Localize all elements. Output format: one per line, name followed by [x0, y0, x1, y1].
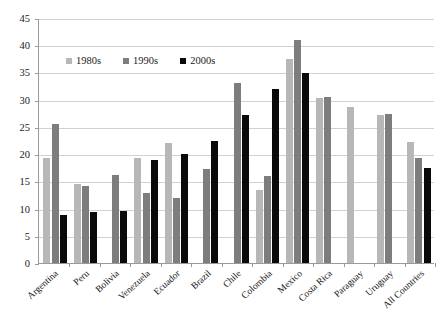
bar	[385, 114, 392, 263]
y-tick-label: 25	[0, 123, 30, 134]
bar	[316, 98, 323, 264]
bar	[242, 115, 249, 263]
y-tick-label: 0	[0, 259, 30, 270]
bar	[60, 215, 67, 263]
y-tick-label: 40	[0, 41, 30, 52]
y-tick-label: 5	[0, 232, 30, 243]
bar	[256, 190, 263, 263]
legend-label: 2000s	[190, 56, 215, 67]
bar-group	[313, 19, 343, 263]
y-tick-mark	[35, 155, 39, 156]
bar	[424, 168, 431, 263]
bar	[272, 89, 279, 263]
y-tick-label: 20	[0, 150, 30, 161]
bar-group	[283, 19, 313, 263]
bar	[407, 142, 414, 263]
legend-item: 1990s	[123, 56, 158, 67]
bar	[82, 186, 89, 263]
x-axis-label: Paraguay	[344, 266, 374, 336]
bar	[90, 212, 97, 263]
x-axis-label: Peru	[69, 266, 99, 336]
legend-swatch	[123, 58, 129, 64]
x-axis-label: Argentina	[39, 266, 69, 336]
bar-group	[252, 19, 282, 263]
bar	[143, 193, 150, 263]
legend-swatch	[180, 58, 186, 64]
bar-group	[222, 19, 252, 263]
bar	[134, 158, 141, 263]
bar-group	[404, 19, 434, 263]
y-tick-label: 15	[0, 177, 30, 188]
x-axis-label: All Countries	[405, 266, 435, 336]
bar-group	[373, 19, 403, 263]
bar	[203, 169, 210, 263]
y-tick-mark	[35, 19, 39, 20]
bar	[52, 124, 59, 263]
x-axis-label: Brazil	[191, 266, 221, 336]
bar	[43, 158, 50, 263]
bar	[181, 154, 188, 263]
x-axis-label: Mexico	[283, 266, 313, 336]
legend-item: 2000s	[180, 56, 215, 67]
bar	[286, 59, 293, 263]
y-tick-label: 30	[0, 95, 30, 106]
bar	[173, 198, 180, 263]
bar	[211, 141, 218, 263]
x-axis-labels: ArgentinaPeruBoliviaVenezuelaEcuadorBraz…	[39, 266, 435, 336]
y-tick-label: 35	[0, 68, 30, 79]
x-tick-mark	[435, 263, 436, 267]
x-axis-label: Colombia	[252, 266, 282, 336]
y-tick-mark	[35, 101, 39, 102]
x-axis-label-text: Brazil	[189, 269, 213, 292]
bar	[347, 107, 354, 263]
bar	[112, 175, 119, 263]
bar	[165, 143, 172, 263]
x-axis-label: Chile	[222, 266, 252, 336]
bar-chart: 051015202530354045 ArgentinaPeruBoliviaV…	[0, 0, 442, 336]
bar	[415, 158, 422, 263]
y-tick-mark	[35, 210, 39, 211]
bar	[377, 115, 384, 263]
y-tick-mark	[35, 237, 39, 238]
legend-label: 1990s	[133, 56, 158, 67]
x-axis-label-text: Argentina	[26, 269, 60, 301]
x-axis-label: Costa Rica	[313, 266, 343, 336]
bar	[151, 160, 158, 263]
x-axis-label: Venezuela	[130, 266, 160, 336]
legend-label: 1980s	[76, 56, 101, 67]
bar	[302, 73, 309, 263]
bar	[264, 176, 271, 263]
y-tick-label: 10	[0, 204, 30, 215]
legend-item: 1980s	[66, 56, 101, 67]
x-axis-label-text: Chile	[222, 269, 244, 290]
x-axis-label: Ecuador	[161, 266, 191, 336]
bar	[324, 97, 331, 263]
bar	[294, 40, 301, 263]
legend: 1980s1990s2000s	[66, 56, 215, 67]
bar-group	[343, 19, 373, 263]
y-tick-mark	[35, 182, 39, 183]
y-tick-mark	[35, 264, 39, 265]
bar	[234, 83, 241, 263]
x-axis-label-text: Peru	[72, 269, 91, 288]
y-tick-mark	[35, 46, 39, 47]
y-tick-mark	[35, 73, 39, 74]
y-tick-mark	[35, 128, 39, 129]
y-tick-label: 45	[0, 14, 30, 25]
x-axis-label: Bolivia	[100, 266, 130, 336]
bar	[74, 184, 81, 263]
bar	[120, 211, 127, 263]
legend-swatch	[66, 58, 72, 64]
